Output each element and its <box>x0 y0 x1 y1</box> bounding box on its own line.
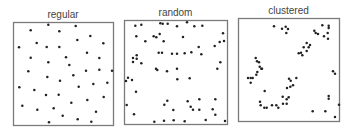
data-point <box>135 90 138 93</box>
data-point <box>188 77 191 80</box>
data-point <box>307 46 310 49</box>
data-point <box>211 108 214 111</box>
data-point <box>249 81 252 84</box>
panel-title-regular: regular <box>47 9 79 20</box>
data-point <box>259 100 262 103</box>
data-point <box>327 24 330 27</box>
data-point <box>172 119 175 122</box>
data-point <box>90 120 93 123</box>
data-point <box>155 36 158 39</box>
data-point <box>163 119 166 122</box>
data-point <box>273 25 276 28</box>
data-point <box>271 104 274 107</box>
data-point <box>309 44 312 47</box>
data-point <box>77 85 80 88</box>
data-point <box>35 42 38 45</box>
data-point <box>140 62 143 65</box>
data-point <box>214 113 217 116</box>
data-point <box>76 39 79 42</box>
data-point <box>198 98 201 101</box>
data-point <box>193 25 196 28</box>
data-points-regular <box>18 23 114 123</box>
data-point <box>45 94 48 97</box>
data-point <box>171 52 174 55</box>
data-point <box>219 61 222 64</box>
data-point <box>86 51 89 54</box>
data-point <box>46 76 49 79</box>
data-point <box>192 108 195 111</box>
data-point <box>284 25 287 28</box>
data-point <box>127 76 130 79</box>
data-point <box>111 69 114 72</box>
data-point <box>134 24 137 27</box>
data-point <box>327 37 330 40</box>
point-pattern-figure: regular random clustered <box>0 0 353 131</box>
data-point <box>156 69 159 72</box>
data-point <box>317 33 320 36</box>
data-point <box>224 120 227 123</box>
data-point <box>305 50 308 53</box>
data-point <box>334 72 337 75</box>
data-point <box>223 40 226 43</box>
data-point <box>301 54 304 57</box>
data-point <box>255 73 258 76</box>
data-point <box>29 29 32 32</box>
data-point <box>314 32 317 35</box>
data-point <box>52 107 55 110</box>
data-point <box>85 69 88 72</box>
data-point <box>176 67 179 70</box>
data-point <box>327 97 330 100</box>
data-point <box>198 108 201 111</box>
data-point <box>161 51 164 54</box>
data-point <box>102 42 105 45</box>
data-point <box>59 79 62 82</box>
data-point <box>190 51 193 54</box>
panel-frame-regular <box>14 23 114 126</box>
panel-random: random <box>125 7 228 125</box>
data-point <box>197 46 200 49</box>
data-point <box>161 22 164 25</box>
data-point <box>102 96 105 99</box>
data-point <box>65 56 68 59</box>
data-point <box>288 77 291 80</box>
data-point <box>182 36 185 39</box>
data-point <box>98 57 101 60</box>
data-point <box>323 35 326 38</box>
data-point <box>302 46 305 49</box>
data-points-clustered <box>247 24 341 118</box>
data-point <box>176 78 179 81</box>
data-point <box>254 57 257 60</box>
data-point <box>186 100 189 103</box>
data-point <box>166 22 169 25</box>
data-point <box>131 79 134 82</box>
data-point <box>58 46 61 49</box>
data-point <box>259 104 262 107</box>
data-point <box>204 119 207 122</box>
data-point <box>92 83 95 86</box>
data-point <box>256 71 259 74</box>
data-point <box>29 56 32 59</box>
data-point <box>98 68 101 71</box>
data-point <box>326 32 329 35</box>
data-point <box>176 52 179 55</box>
data-point <box>135 35 138 38</box>
data-point <box>285 98 288 101</box>
data-point <box>313 29 316 32</box>
data-point <box>57 93 60 96</box>
data-point <box>18 86 21 89</box>
data-point <box>163 103 166 106</box>
data-point <box>327 95 330 98</box>
data-point <box>305 42 308 45</box>
data-point <box>251 77 254 80</box>
data-point <box>289 85 292 88</box>
data-point <box>27 70 30 73</box>
data-point <box>33 89 36 92</box>
data-point <box>152 35 155 38</box>
data-point <box>186 21 189 24</box>
data-points-random <box>125 21 227 123</box>
data-point <box>68 64 71 67</box>
data-point <box>334 116 337 119</box>
data-point <box>321 24 324 27</box>
data-point <box>285 32 288 35</box>
data-point <box>281 95 284 98</box>
